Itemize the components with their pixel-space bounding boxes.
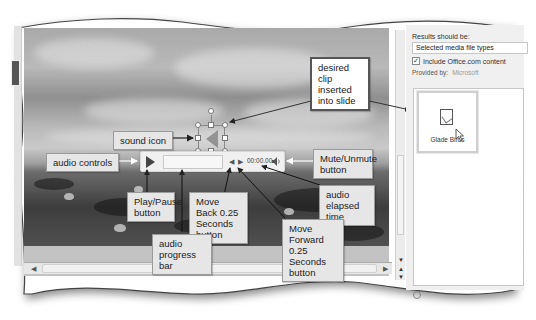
callout-move-forward: Move Forward 0.25 Seconds button	[282, 219, 344, 282]
callout-desired-clip: desired clip inserted into slide	[310, 57, 370, 111]
callout-audio-controls: audio controls	[46, 153, 119, 172]
screenshot-stage: ◀ ▶ ▼ ▲ ▼ ◀ ▶ 00:00.00	[0, 0, 536, 320]
provided-by-row: Provided by:Microsoft	[412, 69, 479, 76]
callout-mute-unmute: Mute/Unmute button	[313, 149, 373, 179]
mouse-pointer-icon	[455, 128, 465, 142]
clip-result-glade-birds[interactable]: Glade Birds	[417, 91, 478, 153]
callout-audio-progress-bar: audio progress bar	[152, 234, 212, 275]
callout-play-pause: Play/Pause button	[127, 192, 175, 222]
include-office-label: Include Office.com content	[423, 58, 506, 65]
search-tips-icon[interactable]	[412, 290, 424, 300]
audio-clip-icon	[440, 109, 453, 125]
results-type-select[interactable]: Selected media file types	[412, 42, 528, 54]
results-should-be-label: Results should be:	[412, 33, 470, 40]
include-office-row[interactable]: ✓ Include Office.com content	[412, 57, 506, 65]
clip-label: Glade Birds	[419, 136, 476, 143]
callout-sound-icon: sound icon	[113, 131, 173, 150]
include-office-checkbox[interactable]: ✓	[412, 57, 420, 65]
